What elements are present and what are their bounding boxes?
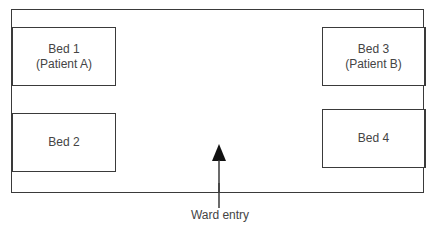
bed-2: Bed 2 <box>11 113 116 172</box>
bed-3: Bed 3 (Patient B) <box>322 27 426 86</box>
bed-1-occupant: (Patient A) <box>36 57 92 72</box>
bed-2-name: Bed 2 <box>48 135 79 150</box>
bed-1: Bed 1 (Patient A) <box>11 27 116 86</box>
bed-4-name: Bed 4 <box>358 131 389 146</box>
bed-4: Bed 4 <box>322 109 426 168</box>
bed-3-occupant: (Patient B) <box>345 57 402 72</box>
bed-3-name: Bed 3 <box>358 42 389 57</box>
bed-1-name: Bed 1 <box>48 42 79 57</box>
ward-entry-label: Ward entry <box>180 208 260 222</box>
